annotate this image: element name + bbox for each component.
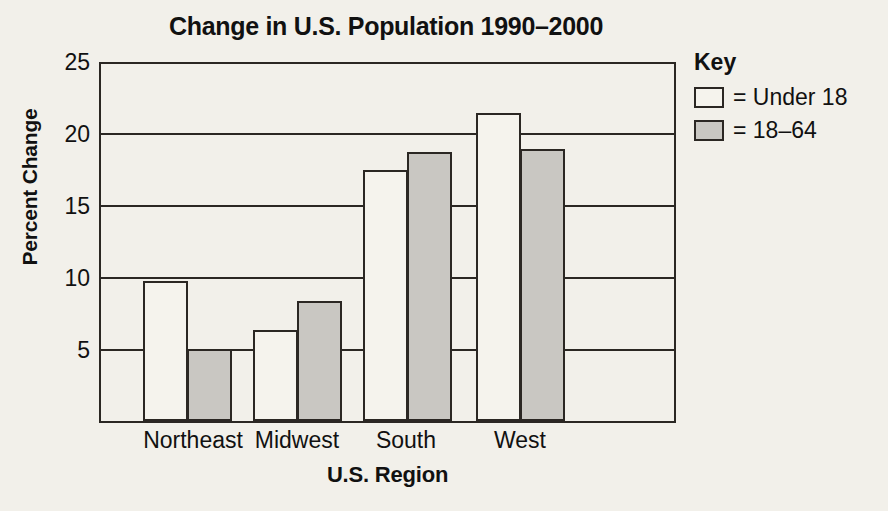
legend-label-under18: = Under 18 <box>733 86 847 109</box>
bar-northeast-under18 <box>143 281 188 421</box>
x-axis-tick-labels: Northeast Midwest South West <box>99 428 676 460</box>
bar-west-18-64 <box>520 149 565 421</box>
y-tick-5: 5 <box>50 339 90 362</box>
legend-item-under18: = Under 18 <box>694 81 884 114</box>
y-axis-title: Percent Change <box>18 77 42 297</box>
bar-northeast-18-64 <box>187 349 232 421</box>
x-axis-title: U.S. Region <box>99 462 676 488</box>
gridline-20 <box>101 133 674 135</box>
bar-midwest-under18 <box>253 330 298 421</box>
plot-area <box>99 62 676 423</box>
y-axis-tick-labels: 25 20 15 10 5 <box>42 0 90 511</box>
legend-item-18-64: = 18–64 <box>694 114 884 147</box>
y-tick-15: 15 <box>50 195 90 218</box>
bar-chart-figure: Change in U.S. Population 1990–2000 25 2… <box>0 0 888 511</box>
chart-title: Change in U.S. Population 1990–2000 <box>96 12 676 41</box>
bar-midwest-18-64 <box>297 301 342 421</box>
legend-swatch-under18-icon <box>694 87 724 108</box>
legend-key: Key = Under 18 = 18–64 <box>694 50 884 147</box>
y-tick-25: 25 <box>50 51 90 74</box>
legend-title: Key <box>694 50 884 74</box>
y-tick-10: 10 <box>50 267 90 290</box>
x-tick-west: West <box>450 428 590 453</box>
bar-west-under18 <box>476 113 521 421</box>
bar-south-18-64 <box>407 152 452 421</box>
legend-label-18-64: = 18–64 <box>733 119 817 142</box>
y-tick-20: 20 <box>50 123 90 146</box>
legend-swatch-18-64-icon <box>694 120 724 141</box>
bar-south-under18 <box>363 170 408 421</box>
